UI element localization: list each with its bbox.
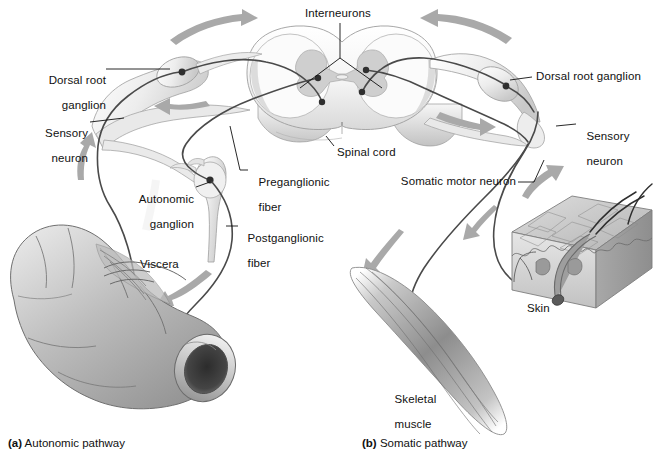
label-line-2: neuron: [52, 152, 88, 164]
label-sensory-neuron-right: Sensory neuron: [580, 117, 629, 167]
label-line-1: Sensory: [45, 127, 88, 139]
label-viscera: Viscera: [140, 258, 179, 271]
label-line-2: muscle: [395, 418, 432, 430]
spinal-cord-illustration: [247, 26, 462, 146]
caption-panel-a-tag: (a): [8, 437, 22, 449]
label-postganglionic-fiber: Postganglionic fiber: [241, 219, 324, 269]
label-line-2: ganglion: [150, 218, 194, 230]
anatomy-figure: Dorsal root ganglion Sensory neuron Inte…: [0, 0, 660, 460]
label-skeletal-muscle: Skeletal muscle: [388, 380, 436, 430]
label-interneurons: Interneurons: [305, 7, 371, 20]
left-nerve-roots: [92, 51, 262, 262]
label-skin: Skin: [527, 302, 550, 315]
skin-illustration: [512, 184, 652, 308]
label-line-2: fiber: [248, 257, 271, 269]
label-dorsal-root-ganglion-left: Dorsal root ganglion: [8, 61, 106, 111]
label-line-1: Sensory: [587, 130, 630, 142]
label-spinal-cord: Spinal cord: [337, 146, 396, 159]
label-preganglionic-fiber: Preganglionic fiber: [252, 163, 330, 213]
label-line-1: Skeletal: [395, 393, 437, 405]
label-sensory-neuron-left: Sensory neuron: [8, 114, 88, 164]
label-somatic-motor-neuron: Somatic motor neuron: [378, 175, 516, 188]
label-line-2: fiber: [259, 201, 282, 213]
label-line-1: Autonomic: [139, 193, 194, 205]
label-line-2: neuron: [587, 155, 623, 167]
caption-panel-b-tag: (b): [362, 437, 377, 449]
caption-panel-b: (b) Somatic pathway: [362, 437, 467, 449]
label-line-1: Dorsal root: [49, 74, 106, 86]
caption-panel-a: (a) Autonomic pathway: [8, 437, 125, 449]
label-line-1: Preganglionic: [259, 176, 330, 188]
label-autonomic-ganglion: Autonomic ganglion: [112, 180, 194, 230]
caption-panel-a-text: Autonomic pathway: [22, 437, 125, 449]
label-dorsal-root-ganglion-right: Dorsal root ganglion: [536, 70, 641, 83]
label-line-1: Postganglionic: [248, 232, 324, 244]
label-line-2: ganglion: [62, 99, 106, 111]
caption-panel-b-text: Somatic pathway: [377, 437, 468, 449]
